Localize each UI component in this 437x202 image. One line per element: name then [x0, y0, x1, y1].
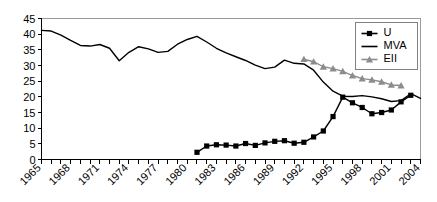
- data-point-u: [408, 93, 413, 98]
- x-tick-label: 1989: [250, 161, 276, 187]
- y-tick-label: 40: [23, 28, 35, 40]
- x-tick-label: 1986: [221, 161, 247, 187]
- x-tick-label: 1995: [309, 161, 335, 187]
- data-point-u: [321, 128, 326, 133]
- data-point-u: [233, 143, 238, 148]
- data-point-u: [262, 140, 267, 145]
- data-point-eii: [300, 56, 307, 62]
- y-tick-label: 30: [23, 60, 35, 72]
- line-chart: 0510152025303540451965196819711974197719…: [0, 0, 437, 202]
- x-tick-label: 1974: [105, 161, 131, 187]
- legend-label-u: U: [384, 26, 392, 38]
- data-point-eii: [320, 63, 327, 69]
- x-tick-label: 1968: [46, 161, 72, 187]
- data-point-u: [194, 150, 199, 155]
- y-tick-label: 35: [23, 44, 35, 56]
- data-point-u: [311, 134, 316, 139]
- x-tick-label: 1980: [163, 161, 189, 187]
- chart-container: 0510152025303540451965196819711974197719…: [0, 0, 437, 202]
- data-point-u: [379, 110, 384, 115]
- x-tick-label: 1971: [75, 161, 101, 187]
- data-point-u: [282, 138, 287, 143]
- data-point-u: [204, 143, 209, 148]
- x-tick-label: 2004: [396, 161, 422, 187]
- y-tick-label: 45: [23, 13, 35, 25]
- x-tick-label: 2001: [367, 161, 393, 187]
- data-point-u: [224, 142, 229, 147]
- data-point-u: [272, 139, 277, 144]
- data-point-u: [253, 143, 258, 148]
- y-tick-label: 10: [23, 122, 35, 134]
- data-point-u: [389, 107, 394, 112]
- data-point-u: [369, 111, 374, 116]
- data-point-u: [292, 141, 297, 146]
- legend-label-eii: EII: [384, 52, 397, 64]
- y-tick-label: 25: [23, 75, 35, 87]
- x-tick-label: 1977: [134, 161, 160, 187]
- legend-label-mva: MVA: [384, 39, 408, 51]
- x-tick-label: 1998: [338, 161, 364, 187]
- data-point-u: [360, 105, 365, 110]
- y-tick-label: 5: [29, 138, 35, 150]
- data-point-u: [350, 100, 355, 105]
- x-tick-label: 1992: [280, 161, 306, 187]
- data-point-u: [340, 95, 345, 100]
- legend-marker-square: [367, 31, 372, 36]
- data-point-u: [398, 99, 403, 104]
- y-tick-label: 20: [23, 91, 35, 103]
- x-tick-label: 1965: [17, 161, 43, 187]
- data-point-u: [301, 140, 306, 145]
- data-point-u: [243, 141, 248, 146]
- data-point-u: [214, 142, 219, 147]
- data-point-u: [330, 114, 335, 119]
- y-tick-label: 15: [23, 107, 35, 119]
- x-tick-label: 1983: [192, 161, 218, 187]
